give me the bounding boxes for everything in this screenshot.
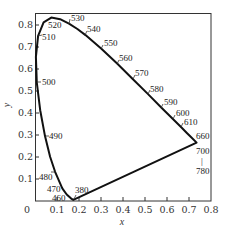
wavelength-label-610: 610 bbox=[184, 117, 198, 127]
wavelength-label-480: 480 bbox=[39, 172, 53, 182]
y-tick-label: 0.5 bbox=[18, 85, 33, 96]
wavelength-label-780: 780 bbox=[196, 166, 210, 176]
wavelength-label-660: 660 bbox=[196, 131, 210, 141]
wavelength-label-460: 460 bbox=[52, 193, 66, 203]
wavelength-label-380: 380 bbox=[75, 185, 89, 195]
x-axis-title: x bbox=[119, 216, 125, 227]
wavelength-label-590: 590 bbox=[164, 97, 178, 107]
x-tick-label: 0.2 bbox=[71, 204, 86, 215]
wavelength-label-550: 550 bbox=[104, 38, 118, 48]
wavelength-labels: 380 460 470 480 490 500 510 520 530 540 … bbox=[39, 13, 210, 203]
y-tick-label: 0.7 bbox=[18, 41, 33, 52]
wavelength-label-500: 500 bbox=[42, 77, 56, 87]
y-tick-label: 0.4 bbox=[18, 107, 33, 118]
wavelength-label-540: 540 bbox=[87, 24, 101, 34]
wavelength-label-470: 470 bbox=[47, 184, 61, 194]
x-tick-label: 0.3 bbox=[93, 204, 108, 215]
cie-chromaticity-diagram: 0 0.1 0.2 0.3 0.4 0.5 0.6 0.7 0.8 0.1 0.… bbox=[0, 0, 227, 233]
wavelength-label-580: 580 bbox=[150, 84, 164, 94]
wavelength-label-530: 530 bbox=[71, 13, 85, 23]
y-tick-label: 0.6 bbox=[18, 63, 33, 74]
wavelength-label-range-bar: | bbox=[201, 156, 203, 166]
wavelength-label-490: 490 bbox=[49, 131, 63, 141]
origin-label: 0 bbox=[24, 204, 30, 215]
wavelength-label-570: 570 bbox=[135, 68, 149, 78]
x-tick-label: 0.7 bbox=[181, 204, 196, 215]
wavelength-label-520: 520 bbox=[48, 20, 62, 30]
wavelength-label-560: 560 bbox=[119, 53, 133, 63]
y-tick-label: 0.8 bbox=[18, 19, 33, 30]
x-tick-labels: 0 0.1 0.2 0.3 0.4 0.5 0.6 0.7 0.8 bbox=[24, 204, 219, 215]
wavelength-label-510: 510 bbox=[42, 32, 56, 42]
y-tick-label: 0.1 bbox=[18, 173, 33, 184]
y-tick-labels: 0.1 0.2 0.3 0.4 0.5 0.6 0.7 0.8 bbox=[18, 19, 33, 184]
x-tick-label: 0.6 bbox=[159, 204, 174, 215]
x-tick-label: 0.4 bbox=[115, 204, 130, 215]
x-tick-label: 0.8 bbox=[203, 204, 218, 215]
y-tick-label: 0.2 bbox=[18, 151, 33, 162]
wavelength-label-700: 700 bbox=[196, 146, 210, 156]
x-tick-label: 0.5 bbox=[137, 204, 152, 215]
y-tick-label: 0.3 bbox=[18, 129, 33, 140]
x-tick-label: 0.1 bbox=[49, 204, 64, 215]
y-axis-title: y bbox=[1, 102, 12, 108]
